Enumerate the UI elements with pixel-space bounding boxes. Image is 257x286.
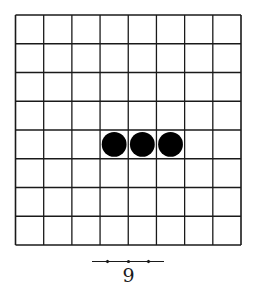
ornament-left-icon [105, 259, 110, 264]
black-stone [158, 132, 183, 157]
black-stone [130, 132, 155, 157]
stones [102, 132, 183, 157]
grid-lines [16, 15, 242, 245]
game-board [0, 0, 257, 255]
ornament-right-icon [146, 259, 151, 264]
figure-number: 9 [0, 265, 257, 285]
black-stone [102, 132, 127, 157]
